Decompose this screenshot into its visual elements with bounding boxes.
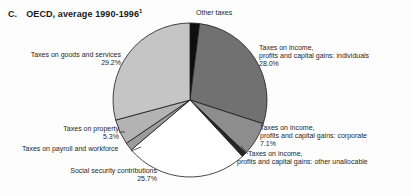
- label-income-individuals: Taxes on income, profits and capital gai…: [259, 44, 369, 68]
- label-income-unallocable: Taxes on income, profits and capital gai…: [237, 150, 368, 166]
- label-other-taxes: Other taxes: [196, 9, 232, 17]
- label-payroll: Taxes on payroll and workforce: [22, 145, 119, 153]
- label-social-security: Social security contributions 25.7%: [60, 167, 157, 183]
- label-goods-services: Taxes on goods and services 29.2%: [18, 51, 121, 67]
- label-property: Taxes on property 5.3%: [40, 125, 119, 141]
- label-income-corporate: Taxes on income, profits and capital gai…: [260, 124, 367, 148]
